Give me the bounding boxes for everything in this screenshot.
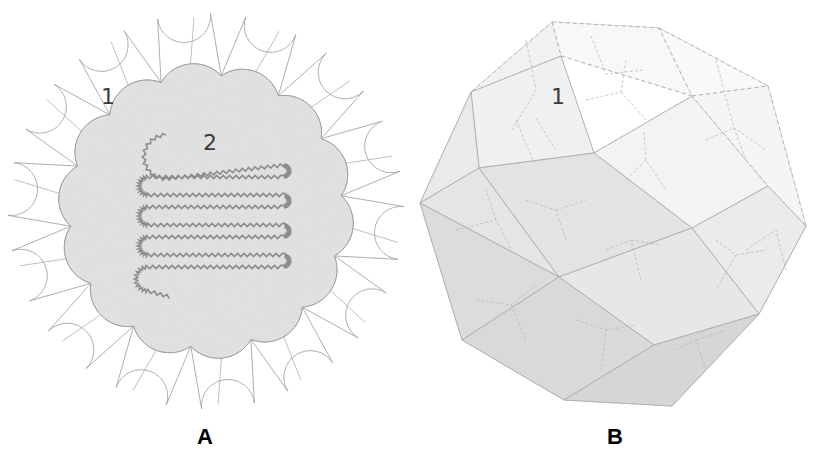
polyhedron <box>420 22 806 406</box>
label-1: 1 <box>101 86 115 108</box>
panel-letter-a: A <box>197 426 213 448</box>
panel-a: 1 2 A <box>0 0 416 467</box>
capsid-3d-polyhedron-diagram <box>416 0 832 467</box>
panel-b: 1 B <box>416 0 832 467</box>
label-1-b: 1 <box>551 86 565 108</box>
panel-letter-b: B <box>607 426 623 448</box>
capsid-cross-section-diagram <box>0 0 416 467</box>
label-2: 2 <box>203 132 217 154</box>
